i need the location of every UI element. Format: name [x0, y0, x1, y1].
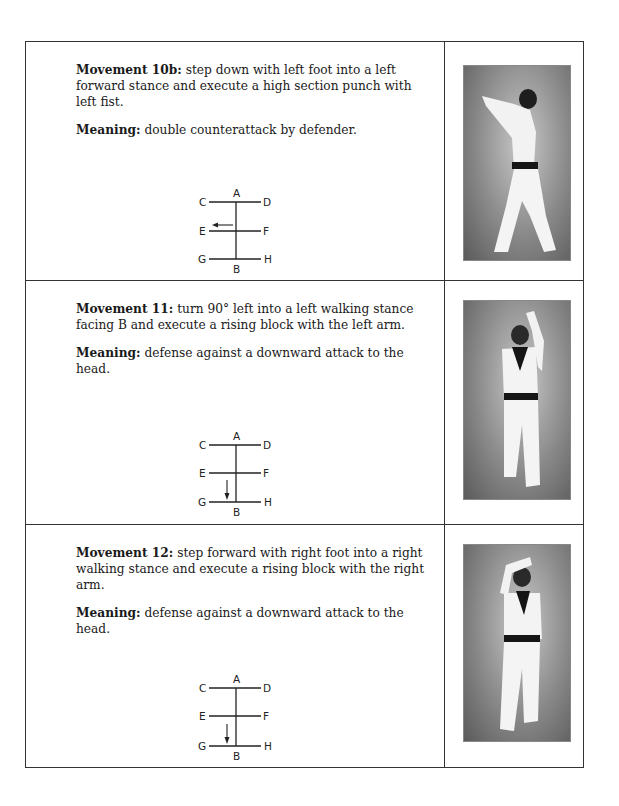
pattern-diagram-icon: A B C D E F G H: [181, 669, 291, 764]
movement-table: Movement 10b: step down with left foot i…: [25, 41, 584, 768]
martial-artist-figure-icon: [464, 301, 570, 499]
svg-text:A: A: [233, 673, 241, 685]
meaning-label: Meaning:: [76, 346, 141, 360]
svg-text:E: E: [199, 710, 206, 722]
svg-text:G: G: [198, 253, 206, 265]
svg-text:G: G: [198, 496, 206, 508]
movement-text: Movement 12: step forward with right foo…: [76, 545, 426, 649]
svg-text:F: F: [263, 710, 269, 722]
svg-text:C: C: [199, 682, 206, 694]
movement-label: Movement 10b:: [76, 63, 182, 77]
svg-text:E: E: [199, 467, 206, 479]
movement-photo: [463, 300, 571, 500]
movement-row-12: Movement 12: step forward with right foo…: [26, 525, 583, 768]
svg-text:D: D: [263, 682, 271, 694]
svg-text:B: B: [233, 750, 240, 762]
martial-artist-figure-icon: [464, 545, 570, 741]
svg-text:D: D: [263, 439, 271, 451]
column-divider: [444, 525, 445, 768]
svg-text:E: E: [199, 225, 206, 237]
direction-diagram: A B C D E F G H: [181, 426, 291, 521]
column-divider: [444, 281, 445, 524]
movement-row-11: Movement 11: turn 90° left into a left w…: [26, 281, 583, 525]
movement-row-10b: Movement 10b: step down with left foot i…: [26, 42, 583, 281]
movement-photo: [463, 65, 571, 261]
movement-text: Movement 10b: step down with left foot i…: [76, 62, 426, 150]
column-divider: [444, 42, 445, 280]
svg-text:F: F: [263, 467, 269, 479]
meaning-text: double counterattack by defender.: [144, 123, 357, 137]
pattern-diagram-icon: A B C D E F G H: [181, 181, 291, 276]
meaning-label: Meaning:: [76, 606, 141, 620]
svg-text:B: B: [233, 263, 240, 275]
svg-text:H: H: [264, 253, 272, 265]
svg-text:C: C: [199, 196, 206, 208]
direction-diagram: A B C D E F G H: [181, 181, 291, 276]
svg-text:C: C: [199, 439, 206, 451]
svg-text:D: D: [263, 196, 271, 208]
svg-text:A: A: [233, 430, 241, 442]
martial-artist-figure-icon: [464, 66, 570, 260]
direction-diagram: A B C D E F G H: [181, 669, 291, 764]
svg-text:B: B: [233, 506, 240, 518]
movement-label: Movement 12:: [76, 546, 173, 560]
svg-text:G: G: [198, 740, 206, 752]
svg-text:F: F: [263, 225, 269, 237]
svg-text:A: A: [233, 187, 241, 199]
svg-text:H: H: [264, 740, 272, 752]
svg-text:H: H: [264, 496, 272, 508]
movement-photo: [463, 544, 571, 742]
pattern-diagram-icon: A B C D E F G H: [181, 426, 291, 521]
movement-text: Movement 11: turn 90° left into a left w…: [76, 301, 426, 389]
movement-label: Movement 11:: [76, 302, 173, 316]
meaning-label: Meaning:: [76, 123, 141, 137]
